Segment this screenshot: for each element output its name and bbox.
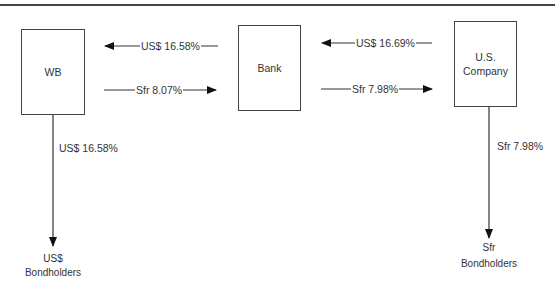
flow-label-bank-to-company: Sfr 7.98% <box>351 83 399 95</box>
node-us-bondholders: US$ Bondholders <box>23 252 83 280</box>
node-bank: Bank <box>238 25 301 111</box>
node-sfr-bondholders-line1: Sfr <box>459 241 519 255</box>
node-us-company: U.S. Company <box>454 21 517 107</box>
node-us-bondholders-line2: Bondholders <box>23 266 83 280</box>
flow-label-company-to-sfr-bondholders: Sfr 7.98% <box>496 140 544 152</box>
flow-label-wb-to-bank: Sfr 8.07% <box>135 84 183 96</box>
node-bank-label: Bank <box>258 61 282 75</box>
node-wb: WB <box>21 29 85 115</box>
node-us-bondholders-line1: US$ <box>23 252 83 266</box>
flow-label-bank-to-wb: US$ 16.58% <box>140 40 201 52</box>
flow-label-company-to-bank: US$ 16.69% <box>355 37 416 49</box>
node-sfr-bondholders: Sfr Bondholders <box>459 241 519 271</box>
node-us-company-label-line2: Company <box>463 64 508 78</box>
node-wb-label: WB <box>45 65 62 79</box>
node-sfr-bondholders-line2: Bondholders <box>459 257 519 271</box>
flow-label-wb-to-us-bondholders: US$ 16.58% <box>58 142 119 154</box>
node-us-company-label-line1: U.S. <box>475 50 495 64</box>
